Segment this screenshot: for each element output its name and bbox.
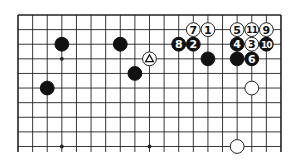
stone-body: [230, 52, 244, 66]
white-stone-7: 7: [186, 23, 200, 37]
white-stone-3: 3: [245, 37, 259, 51]
star-point: [60, 145, 64, 149]
star-point: [60, 57, 64, 61]
move-number-label: 8: [175, 38, 183, 51]
white-stone: [245, 81, 259, 95]
white-stone: [143, 52, 157, 66]
stone-body: [40, 81, 54, 95]
black-stone-4: 4: [230, 37, 244, 51]
move-number-label: 3: [248, 38, 256, 51]
black-stone-6: 6: [245, 52, 259, 66]
move-number-label: 6: [248, 53, 256, 66]
white-stone-9: 9: [259, 23, 273, 37]
black-stone-10: 10: [259, 37, 273, 51]
stone-body: [55, 37, 69, 51]
move-number-label: 2: [189, 38, 197, 51]
move-number-label: 7: [189, 24, 197, 37]
move-number-label: 9: [263, 24, 271, 37]
move-number-label: 11: [246, 25, 257, 35]
white-stone-5: 5: [230, 23, 244, 37]
white-stone: [230, 140, 244, 154]
stone-body: [113, 37, 127, 51]
stone-body: [245, 81, 259, 95]
move-number-label: 10: [261, 40, 272, 50]
black-stone: [55, 37, 69, 51]
move-number-label: 5: [233, 24, 241, 37]
black-stone: [230, 52, 244, 66]
black-stone-2: 2: [186, 37, 200, 51]
move-number-label: 4: [233, 38, 241, 51]
black-stone: [128, 67, 142, 81]
white-stone-1: 1: [201, 23, 215, 37]
stone-body: [230, 140, 244, 154]
stone-body: [128, 67, 142, 81]
black-stone-8: 8: [172, 37, 186, 51]
white-stone-11: 11: [245, 23, 259, 37]
black-stone: [40, 81, 54, 95]
star-point: [148, 145, 152, 149]
move-number-label: 1: [204, 24, 212, 37]
go-board: 1234567891011: [0, 0, 293, 164]
black-stone: [201, 52, 215, 66]
black-stone: [113, 37, 127, 51]
stone-body: [201, 52, 215, 66]
